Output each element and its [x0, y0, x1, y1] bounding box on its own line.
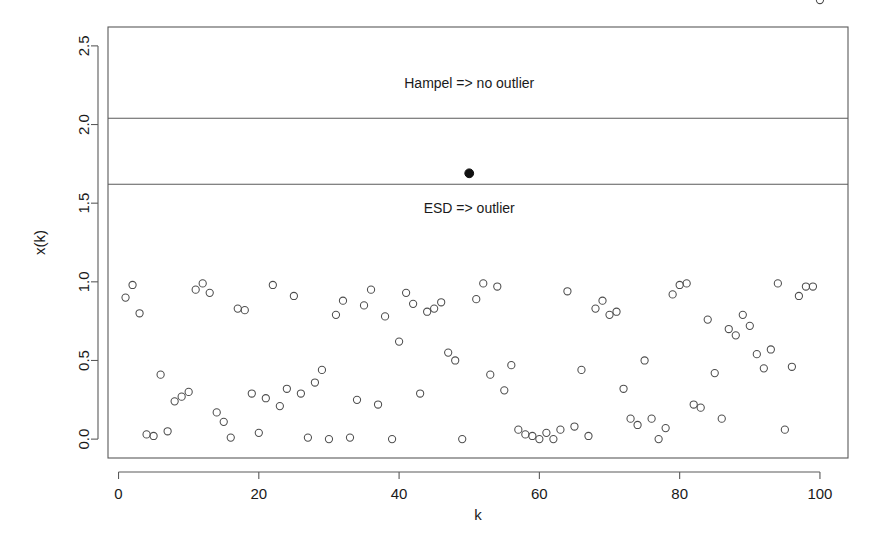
data-point: [241, 307, 248, 314]
data-point: [494, 283, 501, 290]
data-point: [753, 351, 760, 358]
annotations-group: Hampel => no outlierESD => outlier: [404, 75, 534, 215]
data-point: [262, 395, 269, 402]
plot-frame-group: [108, 27, 848, 458]
data-point: [199, 280, 206, 287]
data-point: [809, 283, 816, 290]
data-point: [697, 404, 704, 411]
data-point: [431, 305, 438, 312]
data-point: [480, 280, 487, 287]
data-point: [283, 385, 290, 392]
y-axis-tick-label: 2.0: [75, 114, 92, 135]
data-point: [129, 281, 136, 288]
data-point: [606, 311, 613, 318]
y-axis-tick-label: 2.5: [75, 35, 92, 56]
data-point: [255, 429, 262, 436]
data-point: [445, 349, 452, 356]
data-point: [290, 292, 297, 299]
data-point: [171, 398, 178, 405]
data-point: [746, 322, 753, 329]
data-point: [571, 423, 578, 430]
data-point: [360, 302, 367, 309]
data-point: [353, 396, 360, 403]
data-point: [227, 434, 234, 441]
data-point: [564, 288, 571, 295]
x-axis-group: 020406080100: [114, 472, 832, 502]
scatter-plot-figure: 020406080100 0.00.51.01.52.02.5 Hampel =…: [0, 0, 888, 541]
data-point: [557, 426, 564, 433]
data-point: [655, 436, 662, 443]
data-point: [220, 418, 227, 425]
y-axis-tick-label: 0.5: [75, 350, 92, 371]
data-point: [339, 297, 346, 304]
data-point: [438, 299, 445, 306]
data-point: [578, 366, 585, 373]
data-point: [452, 357, 459, 364]
threshold-lines-group: [108, 118, 848, 184]
data-point: [522, 431, 529, 438]
y-axis-tick-label: 0.0: [75, 429, 92, 450]
data-point: [669, 291, 676, 298]
data-point: [332, 311, 339, 318]
data-point: [318, 366, 325, 373]
data-point: [508, 362, 515, 369]
data-point: [690, 401, 697, 408]
data-point: [683, 280, 690, 287]
data-point: [150, 432, 157, 439]
data-point: [473, 296, 480, 303]
data-point: [403, 289, 410, 296]
data-point: [157, 371, 164, 378]
data-point: [136, 310, 143, 317]
data-point: [346, 434, 353, 441]
data-point: [410, 300, 417, 307]
data-point: [732, 332, 739, 339]
plot-frame: [108, 27, 848, 458]
x-axis-tick-label: 60: [531, 485, 548, 502]
x-axis-tick-label: 0: [114, 485, 122, 502]
data-point: [529, 432, 536, 439]
data-point: [388, 436, 395, 443]
x-axis-title: k: [474, 506, 482, 523]
outlier-point-group: [465, 169, 474, 178]
x-axis-tick-label: 100: [807, 485, 832, 502]
y-axis-tick-label: 1.0: [75, 271, 92, 292]
data-point: [536, 436, 543, 443]
data-point: [704, 316, 711, 323]
data-point: [395, 338, 402, 345]
data-point: [711, 369, 718, 376]
data-point: [515, 426, 522, 433]
data-point: [487, 371, 494, 378]
data-point: [381, 313, 388, 320]
data-point: [802, 283, 809, 290]
data-point: [781, 426, 788, 433]
data-points-group: [122, 0, 824, 443]
data-point: [648, 415, 655, 422]
data-point: [417, 390, 424, 397]
data-point: [760, 365, 767, 372]
data-point: [613, 308, 620, 315]
data-point: [599, 297, 606, 304]
data-point: [627, 415, 634, 422]
data-point: [276, 402, 283, 409]
data-point: [367, 286, 374, 293]
data-point: [774, 280, 781, 287]
data-point: [143, 431, 150, 438]
x-axis-tick-label: 40: [391, 485, 408, 502]
data-point: [459, 436, 466, 443]
data-point: [192, 286, 199, 293]
y-axis-group: 0.00.51.01.52.02.5: [75, 35, 98, 449]
data-point: [767, 346, 774, 353]
y-axis-title: x(k): [31, 230, 48, 255]
data-point: [788, 363, 795, 370]
data-point: [206, 289, 213, 296]
y-axis-tick-label: 1.5: [75, 193, 92, 214]
data-point: [311, 379, 318, 386]
data-point: [424, 308, 431, 315]
data-point: [213, 409, 220, 416]
data-point: [185, 388, 192, 395]
data-point: [248, 390, 255, 397]
data-point: [550, 436, 557, 443]
data-point: [122, 294, 129, 301]
data-point: [718, 415, 725, 422]
x-axis-tick-label: 80: [671, 485, 688, 502]
